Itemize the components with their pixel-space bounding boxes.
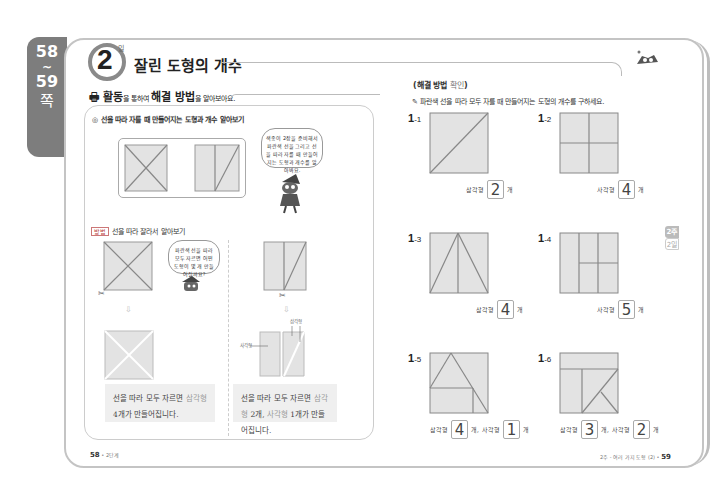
problem-figure-1-1 — [429, 112, 489, 174]
page-number-left: 58 — [90, 451, 100, 459]
method-tag: 방법 — [91, 227, 109, 236]
speech-bubble-intro: 색종이 2장을 준비해서 파란색 선을 그리고 선을 따라 자를 때 만들어지는… — [261, 128, 323, 168]
rectangle-cut-pieces — [240, 320, 320, 380]
problem-label-1-5: 1-5 — [408, 352, 421, 364]
answer-box[interactable]: 1 — [503, 420, 520, 439]
result-left: 선을 따라 모두 자르면 삼각형 4개가 만들어집니다. — [105, 384, 215, 422]
witch-head-icon — [180, 276, 202, 292]
footer-right: 2주 - 여러 가지 도형 (2) • 59 — [600, 453, 671, 461]
lesson-day-badge: 2 일 — [88, 43, 126, 81]
printer-icon: 🖶 — [89, 91, 99, 104]
result-right: 선을 따라 모두 자르면 삼각형 2개, 사각형 1개가 만들어집니다. — [233, 384, 337, 422]
down-arrow-icon: ⇩ — [283, 305, 290, 314]
example-shapes-box — [118, 138, 246, 198]
answer-row-1-6: 삼각형 3 개, 사각형 2 개 — [560, 420, 659, 439]
answer-box[interactable]: 5 — [618, 300, 635, 319]
problem-label-1-3: 1-3 — [408, 232, 421, 244]
footer-left: 58 • 2단계 — [90, 451, 119, 459]
lesson-suffix: 일 — [118, 43, 124, 53]
speech-bubble-question: 파란색 선을 따라 모두 자르면 어떤 도형이 몇 개 만들어질까요? — [168, 240, 220, 274]
page-number-right: 59 — [661, 453, 671, 461]
method-label: 방법선을 따라 잘라서 알아보기 — [91, 226, 185, 236]
page-unit: 쪽 — [27, 91, 67, 111]
rectangle-lines-cut: ✂ — [262, 240, 308, 300]
week-day-tab[interactable]: 2주 2일 — [665, 226, 679, 250]
activity-underline — [230, 94, 380, 100]
answer-box[interactable]: 4 — [618, 180, 635, 199]
instruction: ✎ 파란색 선을 따라 모두 자를 때 만들어지는 도형의 개수를 구하세요. — [412, 96, 604, 106]
problem-label-1-2: 1-2 — [538, 112, 551, 124]
day-tab[interactable]: 2일 — [665, 238, 679, 250]
section-heading: (해결 방법 확인) — [413, 79, 468, 90]
down-arrow-icon: ⇩ — [125, 305, 132, 314]
problem-figure-1-2 — [559, 112, 619, 174]
page-range-tab: 58 ~ 59 쪽 — [27, 37, 67, 157]
scissors-icon: ✂ — [98, 289, 105, 298]
problem-figure-1-5 — [429, 352, 489, 414]
title-underline — [222, 62, 622, 76]
answer-box[interactable]: 4 — [451, 420, 468, 439]
lesson-number: 2 — [97, 44, 113, 76]
answer-box[interactable]: 3 — [581, 420, 598, 439]
problem-label-1-1: 1-1 — [408, 112, 421, 124]
answer-box[interactable]: 4 — [497, 300, 514, 319]
problem-figure-1-6 — [559, 352, 619, 414]
activity-bullet: ◎ 선을 따라 자를 때 만들어지는 도형과 개수 알아보기 — [92, 114, 244, 124]
scissors-icon: ✂ — [279, 291, 286, 300]
problem-label-1-4: 1-4 — [538, 232, 551, 244]
example-shapes — [119, 139, 247, 199]
label-triangle: 삼각형 — [290, 318, 302, 324]
problem-label-1-6: 1-6 — [538, 352, 551, 364]
square-diagonals-cut: ✂ — [98, 240, 156, 300]
answer-row-1-5: 삼각형 4 개, 사각형 1 개 — [430, 420, 529, 439]
answer-row-1-3: 삼각형 4 개 — [476, 300, 523, 319]
answer-row-1-4: 사각형 5 개 — [597, 300, 644, 319]
pencil-icon: ✎ — [412, 98, 418, 106]
square-cut-pieces — [104, 330, 154, 380]
answer-box[interactable]: 2 — [633, 420, 650, 439]
answer-row-1-1: 삼각형 2 개 — [466, 180, 513, 199]
witch-character-icon — [276, 172, 304, 214]
week-tab[interactable]: 2주 — [665, 226, 679, 238]
label-square: 사각형 — [240, 342, 252, 348]
page-from: 58 — [27, 43, 67, 61]
problem-figure-1-3 — [429, 232, 489, 294]
page-to: 59 — [27, 73, 67, 91]
mascot-icon — [634, 50, 660, 66]
problem-figure-1-4 — [559, 232, 619, 294]
answer-row-1-2: 사각형 4 개 — [597, 180, 644, 199]
answer-box[interactable]: 2 — [487, 180, 504, 199]
method-separator — [228, 240, 229, 436]
